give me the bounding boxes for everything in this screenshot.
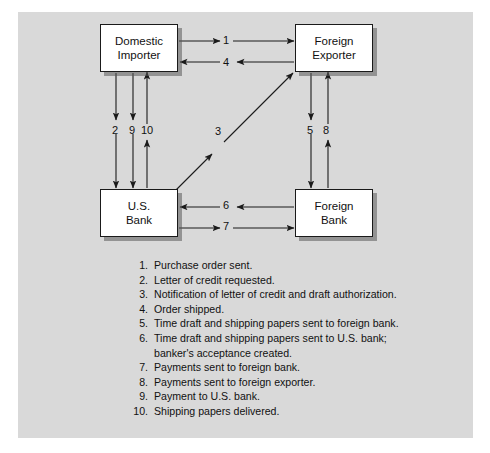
node-foreign-bank-line2: Bank [321,213,347,227]
node-domestic-importer-line1: Domestic [115,34,163,48]
arrow-label-9: 9 [129,125,135,136]
legend-item-number: 2. [128,273,148,288]
legend-item-text: Payments sent to foreign bank. [148,360,300,375]
legend-item-number: 6. [128,331,148,346]
node-foreign-exporter-line2: Exporter [312,48,355,62]
node-foreign-exporter[interactable]: Foreign Exporter [295,24,373,72]
legend-item-number: 1. [128,258,148,273]
arrow-label-3: 3 [215,126,221,137]
node-foreign-exporter-line1: Foreign [315,34,354,48]
legend-item: 2.Letter of credit requested. [128,273,418,288]
legend-item: 8.Payments sent to foreign exporter. [128,375,418,390]
legend-item: 5.Time draft and shipping papers sent to… [128,316,418,331]
legend-item-text: Payments sent to foreign exporter. [148,375,315,390]
legend-item-text: Time draft and shipping papers sent to f… [148,316,399,331]
legend-item-text: Notification of letter of credit and dra… [148,287,397,302]
legend-item-text: Time draft and shipping papers sent to U… [148,331,387,346]
node-us-bank-line2: Bank [126,213,152,227]
node-us-bank[interactable]: U.S. Bank [100,189,178,237]
arrow-label-6: 6 [223,200,229,211]
legend-item-number: 8. [128,375,148,390]
arrow-label-1: 1 [223,35,229,46]
legend-item-text: Letter of credit requested. [148,273,275,288]
legend-item-number: 7. [128,360,148,375]
legend-item: 10.Shipping papers delivered. [128,404,418,419]
arrow-label-7: 7 [223,221,229,232]
arrow-label-5: 5 [307,125,313,136]
diagram-root: Domestic Importer Foreign Exporter U.S. … [0,0,490,453]
legend-item-text: Shipping papers delivered. [148,404,279,419]
legend-item-number: 4. [128,302,148,317]
node-domestic-importer-line2: Importer [118,48,161,62]
legend-item-number: 5. [128,316,148,331]
arrow-label-2: 2 [112,125,118,136]
node-foreign-bank[interactable]: Foreign Bank [295,189,373,237]
legend-item-text: Payment to U.S. bank. [148,389,260,404]
arrow-label-10: 10 [141,125,153,136]
legend-item: 9.Payment to U.S. bank. [128,389,418,404]
legend-item-text: Purchase order sent. [148,258,252,273]
legend-item: 1.Purchase order sent. [128,258,418,273]
node-domestic-importer[interactable]: Domestic Importer [100,24,178,72]
legend-item-text: Order shipped. [148,302,224,317]
arrow-label-8: 8 [323,125,329,136]
node-us-bank-line1: U.S. [128,199,150,213]
legend-item: 3.Notification of letter of credit and d… [128,287,418,302]
legend-item: 6.Time draft and shipping papers sent to… [128,331,418,346]
legend-item-number: 3. [128,287,148,302]
arrow-label-4: 4 [223,57,229,68]
legend-item: 4.Order shipped. [128,302,418,317]
legend-item-number: 9. [128,389,148,404]
legend-item-continuation: banker's acceptance created. [128,346,418,361]
node-foreign-bank-line1: Foreign [315,199,354,213]
legend: 1.Purchase order sent.2.Letter of credit… [128,258,418,419]
legend-item-number: 10. [128,404,148,419]
legend-item: 7.Payments sent to foreign bank. [128,360,418,375]
